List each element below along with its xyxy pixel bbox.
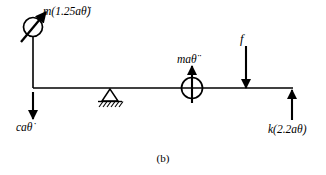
- label-spring-force: k(2.2aθ): [268, 124, 307, 136]
- ground-hatching: [99, 102, 123, 108]
- diagram-canvas: [0, 0, 326, 175]
- label-inertia-force: maθ̈: [177, 54, 197, 66]
- free-body-diagram: m(1.25aθ̈) maθ̈ f caθ̇ k(2.2aθ) (b): [0, 0, 326, 175]
- pivot-triangle: [102, 89, 118, 101]
- label-damping-force: caθ̇: [16, 122, 33, 134]
- pivot-support-triangle: [98, 89, 123, 107]
- label-applied-force: f: [240, 33, 243, 46]
- circle-vertical-arrow-symbol: [182, 66, 203, 103]
- label-inertia-moment: m(1.25aθ̈): [43, 6, 91, 18]
- figure-caption: (b): [0, 152, 326, 164]
